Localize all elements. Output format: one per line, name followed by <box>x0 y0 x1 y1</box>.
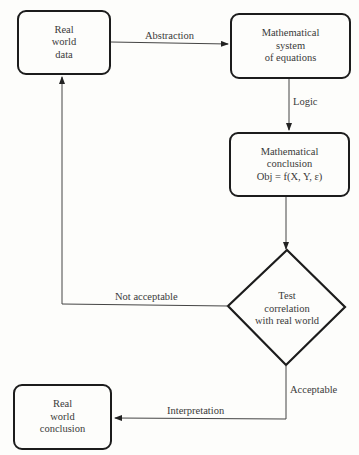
node-text: data <box>55 49 73 62</box>
node-text: conclusion <box>40 423 86 436</box>
not-acceptable-label: Not acceptable <box>115 291 178 302</box>
node-text: of equations <box>265 52 317 65</box>
node-text: world <box>52 36 77 49</box>
real-world-data-box: Real world data <box>17 10 111 75</box>
node-text: conclusion <box>267 158 313 171</box>
abstraction-label: Abstraction <box>145 30 194 41</box>
node-text: with real world <box>236 315 338 328</box>
node-text: correlation <box>236 303 338 316</box>
acceptable-label: Acceptable <box>290 384 337 395</box>
math-conclusion-box: Mathematical conclusion Obj = f(X, Y, ε) <box>229 132 350 197</box>
node-text: Mathematical <box>261 146 319 159</box>
real-world-conclusion-box: Real world conclusion <box>13 384 112 450</box>
logic-label: Logic <box>293 96 318 107</box>
node-text: system <box>276 40 305 53</box>
test-correlation-text: Test correlation with real world <box>236 290 338 328</box>
abstraction-arrow <box>111 42 228 44</box>
node-text: world <box>50 411 75 424</box>
node-text: Real <box>53 398 72 411</box>
node-text: Mathematical <box>262 27 320 40</box>
math-system-box: Mathematical system of equations <box>230 13 351 79</box>
interpretation-label: Interpretation <box>167 405 224 416</box>
node-text: Real <box>54 24 73 37</box>
formula-text: Obj = f(X, Y, ε) <box>257 171 323 184</box>
node-text: Test <box>236 290 338 303</box>
not-acceptable-arrow <box>62 77 228 306</box>
